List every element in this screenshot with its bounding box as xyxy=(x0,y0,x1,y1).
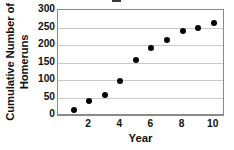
x-axis-title: Year xyxy=(57,132,224,144)
data-point xyxy=(148,45,154,51)
y-tick-label-200: 200 xyxy=(31,39,55,49)
chart-container: Cumulative Number of Homeruns 0501001502… xyxy=(0,0,234,150)
gridline-y-100 xyxy=(58,80,223,81)
x-axis-tick-labels: 246810 xyxy=(57,118,224,132)
y-tick-label-50: 50 xyxy=(31,92,55,102)
cropped-title-sliver xyxy=(112,0,121,2)
y-axis-tick-labels: 050100150200250300 xyxy=(30,0,55,150)
data-point xyxy=(164,37,170,43)
data-point xyxy=(102,92,108,98)
y-tick-label-100: 100 xyxy=(31,74,55,84)
data-point xyxy=(211,20,217,26)
x-tick-label-2: 2 xyxy=(78,118,98,130)
data-point xyxy=(117,78,123,84)
gridline-y-200 xyxy=(58,45,223,46)
x-tick-label-10: 10 xyxy=(203,118,223,130)
data-point xyxy=(71,107,77,113)
gridline-y-50 xyxy=(58,98,223,99)
y-tick-label-250: 250 xyxy=(31,22,55,32)
x-tick-label-8: 8 xyxy=(172,118,192,130)
x-axis-line xyxy=(58,114,223,115)
data-point xyxy=(133,57,139,63)
data-point xyxy=(195,25,201,31)
data-point xyxy=(86,98,92,104)
x-tick-label-6: 6 xyxy=(140,118,160,130)
y-tick-label-150: 150 xyxy=(31,57,55,67)
y-tick-label-300: 300 xyxy=(31,4,55,14)
y-axis-title-line2: Homeruns xyxy=(17,3,31,121)
y-axis-title-line1: Cumulative Number of xyxy=(3,3,17,121)
plot-area xyxy=(57,9,224,116)
y-axis-title: Cumulative Number of Homeruns xyxy=(0,0,34,124)
data-point xyxy=(180,28,186,34)
y-tick-label-0: 0 xyxy=(31,109,55,119)
gridline-y-150 xyxy=(58,63,223,64)
x-tick-label-4: 4 xyxy=(109,118,129,130)
